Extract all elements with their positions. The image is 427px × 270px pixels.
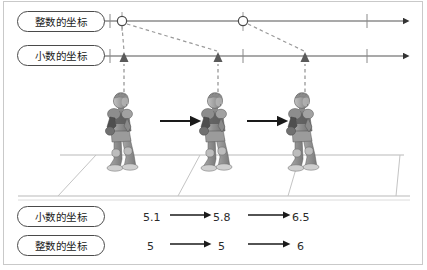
readout-integer-value-3: 6: [297, 240, 304, 253]
readout-integer-value-2: 5: [218, 240, 225, 253]
readout-decimal-value-3: 6.5: [292, 211, 310, 224]
mapping-connectors: [122, 24, 304, 51]
readout-label-decimal: 小数的坐标: [17, 206, 105, 227]
riser-dashed-lines: [124, 64, 305, 92]
diagram-canvas: [0, 0, 427, 270]
figure-root: 整数的坐标 小数的坐标 小数的坐标 整数的坐标 5.1 5.8 6.5 5 5 …: [0, 0, 427, 270]
axis-label-integer-top: 整数的坐标: [17, 11, 105, 32]
character-2: [199, 93, 232, 172]
readout-decimal-value-2: 5.8: [213, 211, 231, 224]
character-1: [105, 93, 138, 172]
readout-integer-value-1: 5: [147, 240, 154, 253]
axis-label-decimal-top: 小数的坐标: [17, 45, 105, 66]
readout-label-integer: 整数的坐标: [17, 235, 105, 256]
character-3: [286, 93, 319, 172]
readout-decimal-value-1: 5.1: [143, 211, 161, 224]
